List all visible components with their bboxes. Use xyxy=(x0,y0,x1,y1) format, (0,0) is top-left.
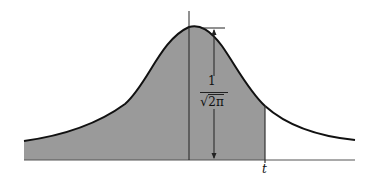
radicand: 2π xyxy=(208,94,224,109)
t-label: t xyxy=(262,162,267,176)
peak-height-numerator: 1 xyxy=(208,74,216,88)
normal-curve-figure xyxy=(0,0,380,176)
peak-height-denominator: √2π xyxy=(200,94,224,109)
fraction-bar xyxy=(200,92,228,93)
arrow-up-icon xyxy=(212,29,217,35)
